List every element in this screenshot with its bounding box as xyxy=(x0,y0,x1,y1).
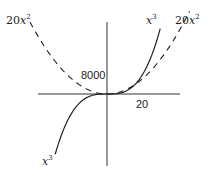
x-tick-label: 20 xyxy=(136,99,148,110)
y-tick-label: 8000 xyxy=(81,70,105,81)
label-exp: 2 xyxy=(26,13,30,21)
label-x3-right: x3 xyxy=(146,14,157,26)
label-20x2-left: 20x2 xyxy=(6,14,31,26)
curve-20x2 xyxy=(30,11,190,94)
label-exp: 2 xyxy=(195,13,199,21)
label-exp: 3 xyxy=(48,154,52,162)
label-exp: 3 xyxy=(152,13,156,21)
label-coef: 20 xyxy=(175,14,189,27)
curve-x3 xyxy=(55,29,160,155)
label-coef: 20 xyxy=(6,14,20,27)
label-20x2-right: 20x2 xyxy=(175,14,200,26)
label-x3-left: x3 xyxy=(42,155,53,167)
